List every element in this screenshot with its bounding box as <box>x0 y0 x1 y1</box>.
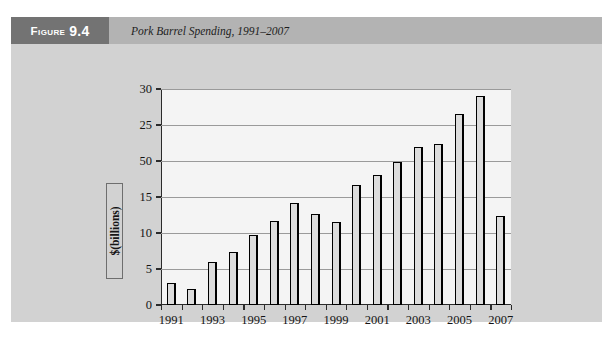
bar-1999 <box>332 222 341 305</box>
y-axis-tick-mark <box>156 88 161 90</box>
figure-header-band: Figure 9.4 Pork Barrel Spending, 1991–20… <box>11 17 602 44</box>
x-axis-tick-label: 2007 <box>488 313 513 328</box>
gridline <box>161 89 511 90</box>
x-axis-tick-mark <box>326 305 327 310</box>
bar-1997 <box>290 203 299 305</box>
bar-2000 <box>352 185 361 305</box>
bar-2003 <box>414 147 423 305</box>
x-axis-tick-label: 1997 <box>282 313 307 328</box>
figure-number-badge: Figure 9.4 <box>11 17 109 44</box>
y-axis-tick-mark <box>156 124 161 126</box>
figure-badge-word: Figure <box>31 25 66 37</box>
x-axis-tick-mark <box>182 305 183 310</box>
bar-2001 <box>373 175 382 305</box>
bar-2002 <box>393 162 402 305</box>
y-axis-label: $(billions) <box>109 206 121 255</box>
x-axis-tick-mark <box>511 305 512 310</box>
bar-1996 <box>270 221 279 305</box>
bar-1994 <box>229 252 238 305</box>
bar-1998 <box>311 214 320 305</box>
bar-1991 <box>167 283 176 305</box>
x-axis-tick-label: 1991 <box>159 313 184 328</box>
x-axis-tick-mark <box>387 305 388 310</box>
y-axis-tick-mark <box>156 160 161 162</box>
x-axis-tick-label: 1999 <box>324 313 349 328</box>
bar-2004 <box>434 144 443 305</box>
bar-1993 <box>208 262 217 305</box>
y-axis-tick-label: 15 <box>140 190 153 205</box>
x-axis-tick-mark <box>223 305 224 310</box>
x-axis-tick-mark <box>408 305 409 310</box>
y-axis-tick-mark <box>156 268 161 270</box>
x-axis-tick-mark <box>305 305 306 310</box>
x-axis-tick-mark <box>202 305 203 310</box>
y-axis-label-box: $(billions) <box>106 183 123 279</box>
y-axis-tick-label: 50 <box>140 154 153 169</box>
y-axis-tick-label: 5 <box>146 262 152 277</box>
y-axis-tick-mark <box>156 232 161 234</box>
x-axis-tick-label: 2005 <box>447 313 472 328</box>
figure-badge-number: 9.4 <box>69 23 89 39</box>
x-axis-tick-mark <box>346 305 347 310</box>
bar-2006 <box>476 96 485 305</box>
bar-2005 <box>455 114 464 305</box>
x-axis-tick-mark <box>243 305 244 310</box>
y-axis-tick-label: 0 <box>146 298 152 313</box>
chart-region: $(billions) 051015502530 199119931995199… <box>11 44 602 322</box>
x-axis-tick-label: 1993 <box>200 313 225 328</box>
x-axis-tick-label: 2003 <box>406 313 431 328</box>
x-axis-tick-mark <box>285 305 286 310</box>
figure-card: Figure 9.4 Pork Barrel Spending, 1991–20… <box>11 17 602 322</box>
bar-2007 <box>496 216 505 305</box>
y-axis-tick-label: 30 <box>140 82 153 97</box>
x-axis-tick-mark <box>449 305 450 310</box>
x-axis-tick-label: 2001 <box>365 313 390 328</box>
y-axis-tick-label: 10 <box>140 226 153 241</box>
x-axis-tick-mark <box>161 305 162 310</box>
x-axis-tick-mark <box>264 305 265 310</box>
x-axis-tick-mark <box>470 305 471 310</box>
y-axis-tick-label: 25 <box>140 118 153 133</box>
y-axis-tick-mark <box>156 196 161 198</box>
figure-caption: Pork Barrel Spending, 1991–2007 <box>131 17 289 44</box>
x-axis-tick-mark <box>429 305 430 310</box>
x-axis-tick-mark <box>490 305 491 310</box>
x-axis-tick-mark <box>367 305 368 310</box>
x-axis-tick-label: 1995 <box>241 313 266 328</box>
bar-1992 <box>187 289 196 305</box>
bar-1995 <box>249 235 258 305</box>
bar-chart-plot: 051015502530 199119931995199719992001200… <box>161 89 511 305</box>
